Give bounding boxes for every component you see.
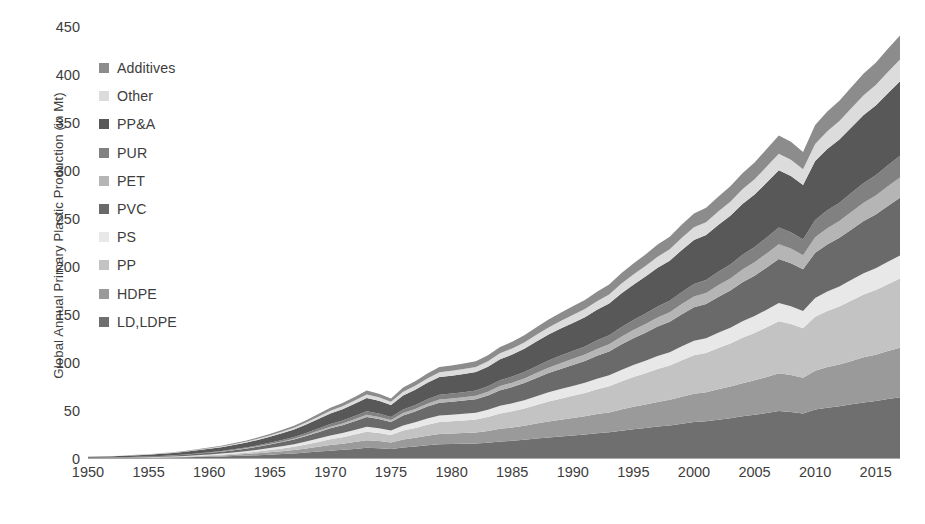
legend-label: HDPE (117, 286, 157, 302)
legend-item-pet[interactable]: PET (99, 167, 177, 195)
x-tick-1990: 1990 (543, 464, 603, 480)
legend-item-pur[interactable]: PUR (99, 139, 177, 167)
x-tick-1950: 1950 (58, 464, 118, 480)
legend-label: PS (117, 229, 136, 245)
legend-label: PP&A (117, 116, 155, 132)
legend-swatch-icon (99, 148, 109, 158)
stacked-area-chart: Global Annual Primary Plastic Production… (0, 0, 925, 524)
legend-swatch-icon (99, 289, 109, 299)
x-tick-1955: 1955 (119, 464, 179, 480)
x-tick-1985: 1985 (482, 464, 542, 480)
legend-item-pp[interactable]: PP (99, 251, 177, 279)
chart-legend: AdditivesOtherPP&APURPETPVCPSPPHDPELD,LD… (99, 54, 177, 336)
legend-swatch-icon (99, 232, 109, 242)
legend-label: Other (117, 88, 153, 104)
legend-swatch-icon (99, 91, 109, 101)
legend-label: LD,LDPE (117, 314, 177, 330)
legend-item-ld-ldpe[interactable]: LD,LDPE (99, 308, 177, 336)
x-tick-2000: 2000 (664, 464, 724, 480)
legend-item-ps[interactable]: PS (99, 223, 177, 251)
legend-label: PP (117, 257, 136, 273)
legend-swatch-icon (99, 119, 109, 129)
legend-label: PUR (117, 145, 147, 161)
legend-label: PET (117, 173, 145, 189)
legend-item-other[interactable]: Other (99, 82, 177, 110)
legend-label: Additives (117, 60, 175, 76)
area-series-group (88, 35, 900, 458)
x-tick-1965: 1965 (240, 464, 300, 480)
legend-label: PVC (117, 201, 146, 217)
legend-item-hdpe[interactable]: HDPE (99, 280, 177, 308)
x-tick-2015: 2015 (846, 464, 906, 480)
legend-swatch-icon (99, 176, 109, 186)
x-tick-1975: 1975 (361, 464, 421, 480)
legend-item-additives[interactable]: Additives (99, 54, 177, 82)
legend-item-pp-a[interactable]: PP&A (99, 110, 177, 138)
x-tick-1970: 1970 (300, 464, 360, 480)
legend-swatch-icon (99, 260, 109, 270)
x-tick-1995: 1995 (603, 464, 663, 480)
legend-item-pvc[interactable]: PVC (99, 195, 177, 223)
x-tick-1980: 1980 (422, 464, 482, 480)
x-tick-2010: 2010 (785, 464, 845, 480)
x-tick-1960: 1960 (179, 464, 239, 480)
x-tick-2005: 2005 (725, 464, 785, 480)
legend-swatch-icon (99, 204, 109, 214)
legend-swatch-icon (99, 317, 109, 327)
legend-swatch-icon (99, 63, 109, 73)
